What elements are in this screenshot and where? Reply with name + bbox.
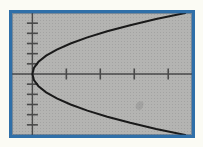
figure-page bbox=[0, 0, 203, 147]
parabola-plot bbox=[12, 13, 192, 135]
calculator-screen-bezel bbox=[9, 10, 195, 138]
calculator-screen bbox=[12, 13, 192, 135]
